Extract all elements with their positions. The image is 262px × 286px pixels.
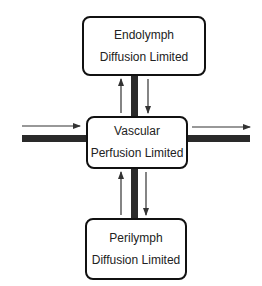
vessel-bar-right	[186, 135, 250, 142]
perilymph-title: Perilymph	[109, 232, 162, 245]
endolymph-title: Endolymph	[114, 29, 174, 42]
vessel-bar-top	[131, 74, 138, 118]
perilymph-subtitle: Diffusion Limited	[92, 254, 181, 267]
vascular-node: Vascular Perfusion Limited	[86, 116, 188, 169]
vessel-bar-bottom	[131, 167, 138, 220]
perilymph-node: Perilymph Diffusion Limited	[85, 218, 187, 280]
endolymph-subtitle: Diffusion Limited	[100, 51, 189, 64]
vascular-title: Vascular	[114, 125, 160, 138]
vessel-bar-left	[22, 135, 88, 142]
endolymph-node: Endolymph Diffusion Limited	[82, 16, 206, 76]
vascular-subtitle: Perfusion Limited	[91, 147, 184, 160]
